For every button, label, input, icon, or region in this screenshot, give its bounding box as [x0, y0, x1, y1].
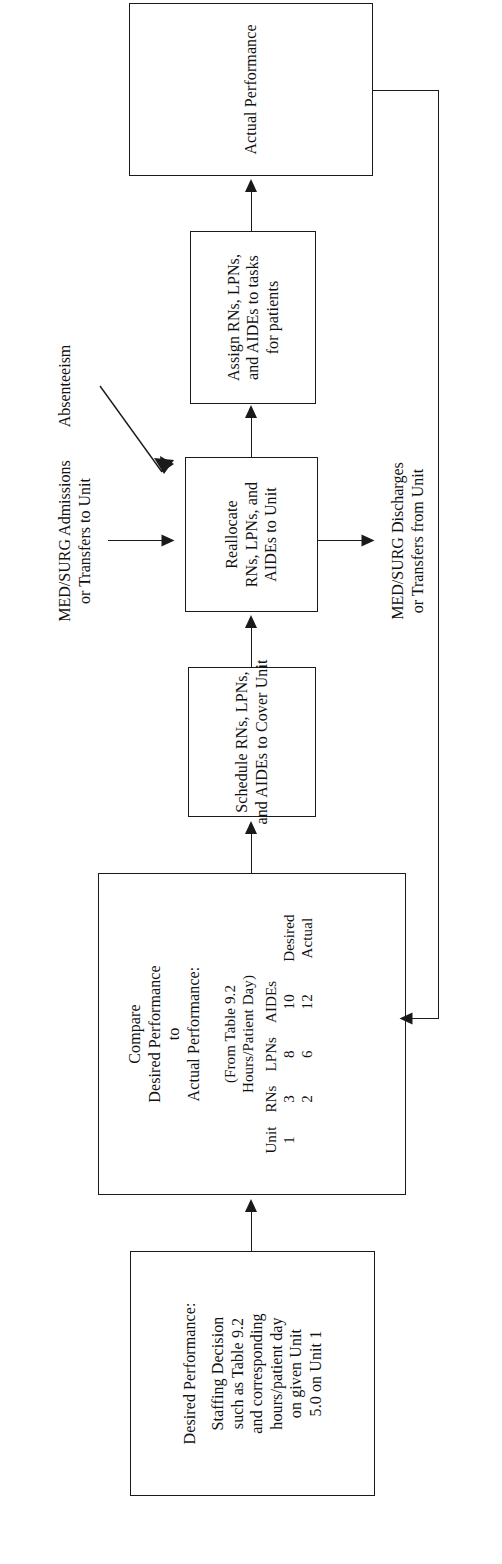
compare-header-line-3: to — [164, 1028, 184, 1041]
schedule-line-2: and AIDEs to Cover Unit — [252, 660, 272, 825]
table-cell-lpns-desired: 8 — [280, 1030, 298, 1079]
desired-performance-line-4: and corresponding — [247, 1313, 267, 1433]
table-col-unit: Unit — [262, 1120, 280, 1161]
feedback-line-across — [438, 90, 439, 1019]
desired-performance-line-5: hours/patient day — [267, 1317, 287, 1429]
table-col-aides: AIDEs — [262, 974, 280, 1030]
connector-schedule-to-reallocate-arrowhead — [245, 615, 257, 628]
compare-header-line-1: Compare — [125, 1004, 145, 1063]
assign-line-3: for patients — [263, 281, 283, 355]
node-schedule-staff[interactable]: Schedule RNs, LPNs, and AIDEs to Cover U… — [188, 667, 316, 817]
table-cell-rns-desired: 3 — [280, 1079, 298, 1120]
assign-line-2: and AIDEs to tasks — [243, 255, 263, 380]
table-cell-aides-actual: 12 — [298, 974, 316, 1030]
connector-assign-to-actual-line — [251, 188, 252, 231]
discharges-line-1: MED/SURG Discharges — [388, 416, 408, 666]
table-cell-unit-desired: 1 — [280, 1120, 298, 1161]
compare-header-line-4: Actual Performance: — [184, 967, 204, 1102]
node-actual-performance[interactable]: Actual Performance — [129, 3, 373, 176]
absenteeism-line-1: Absenteeism — [55, 306, 75, 466]
connector-discharges-line — [318, 540, 368, 541]
annotation-discharges: MED/SURG Discharges or Transfers from Un… — [388, 416, 428, 666]
node-compare-performance[interactable]: Compare Desired Performance to Actual Pe… — [98, 873, 406, 1195]
node-assign-tasks[interactable]: Assign RNs, LPNs, and AIDEs to tasks for… — [190, 231, 316, 404]
annotation-absenteeism: Absenteeism — [55, 306, 75, 466]
discharges-line-2: or Transfers from Unit — [408, 416, 428, 666]
actual-performance-line-1: Actual Performance — [241, 24, 261, 154]
connector-reallocate-to-assign-line — [251, 413, 252, 457]
table-col-kind — [262, 907, 280, 973]
table-row: 1 3 8 10 Desired — [280, 907, 298, 1160]
reallocate-line-2: RNs, LPNs, and — [242, 482, 262, 587]
desired-performance-line-3: such as Table 9.2 — [228, 1318, 248, 1429]
reallocate-line-3: AIDEs to Unit — [261, 487, 281, 582]
table-col-rns: RNs — [262, 1079, 280, 1120]
table-cell-unit-actual — [298, 1120, 316, 1161]
feedback-line-down-from-actual — [373, 90, 439, 91]
table-cell-aides-desired: 10 — [280, 974, 298, 1030]
compare-header-line-2: Desired Performance — [145, 965, 165, 1102]
table-cell-label-actual: Actual — [298, 907, 316, 973]
connector-admissions-arrowhead — [162, 535, 175, 547]
connector-desired-to-compare-line — [251, 1207, 252, 1251]
compare-source-line-1: (From Table 9.2 — [221, 985, 239, 1083]
connector-assign-to-actual-arrowhead — [245, 179, 257, 192]
node-reallocate-staff[interactable]: Reallocate RNs, LPNs, and AIDEs to Unit — [185, 457, 318, 612]
compare-source-line-2: Hours/Patient Day) — [239, 975, 257, 1093]
connector-compare-to-schedule-line — [251, 829, 252, 873]
connector-discharges-arrowhead — [362, 535, 375, 547]
schedule-line-1: Schedule RNs, LPNs, — [232, 671, 252, 812]
node-desired-performance[interactable]: Desired Performance: Staffing Decision s… — [130, 1251, 375, 1496]
connector-schedule-to-reallocate-line — [251, 623, 252, 667]
reallocate-line-1: Reallocate — [222, 500, 242, 569]
table-cell-lpns-actual: 6 — [298, 1030, 316, 1079]
connector-desired-to-compare-arrowhead — [245, 1199, 257, 1212]
connector-absenteeism-arrow — [90, 374, 200, 504]
connector-admissions-line — [108, 540, 164, 541]
table-row: 2 6 12 Actual — [298, 907, 316, 1160]
table-cell-rns-actual: 2 — [298, 1079, 316, 1120]
feedback-arrowhead-into-compare — [400, 1013, 413, 1025]
desired-performance-line-7: 5.0 on Unit 1 — [306, 1331, 326, 1417]
desired-performance-line-1: Desired Performance: — [180, 1303, 200, 1445]
table-cell-label-desired: Desired — [280, 907, 298, 973]
desired-performance-line-2: Staffing Decision — [208, 1317, 228, 1431]
assign-line-1: Assign RNs, LPNs, — [224, 254, 244, 381]
table-col-lpns: LPNs — [262, 1030, 280, 1079]
connector-reallocate-to-assign-arrowhead — [245, 405, 257, 418]
desired-performance-line-6: on given Unit — [286, 1329, 306, 1418]
table-header-row: Unit RNs LPNs AIDEs — [262, 907, 280, 1160]
flowchart-canvas: Desired Performance: Staffing Decision s… — [0, 0, 502, 1564]
staffing-comparison-table: Unit RNs LPNs AIDEs 1 3 8 10 Desired 2 — [262, 907, 316, 1160]
